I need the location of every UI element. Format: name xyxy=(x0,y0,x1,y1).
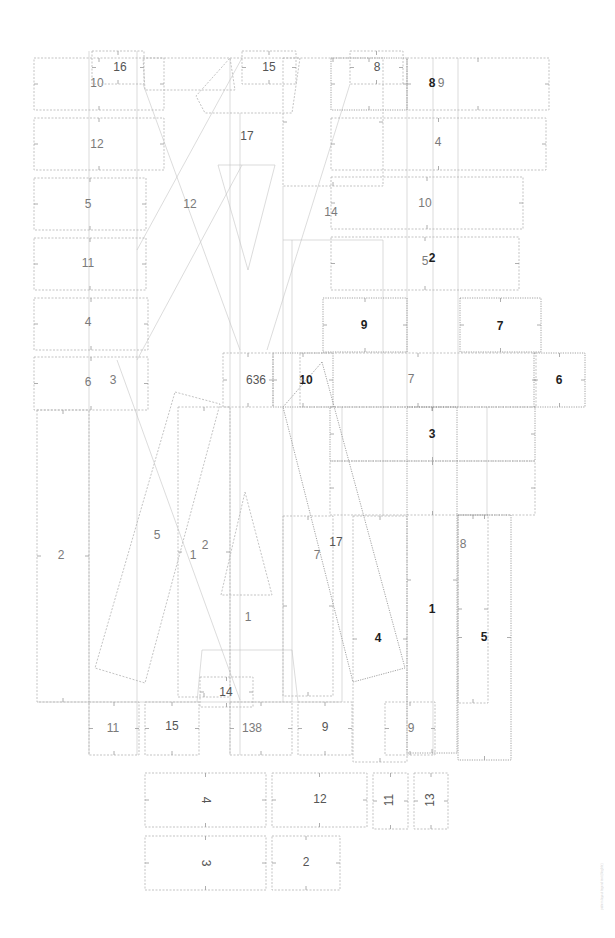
piece-number-label: 12 xyxy=(313,792,327,806)
piece-number-label: 13 xyxy=(423,793,437,807)
piece-number-label: 6 xyxy=(85,375,92,389)
piece-number-label: 4 xyxy=(375,631,382,645)
piece-number-label: 7 xyxy=(408,372,415,386)
pattern-piece-p17: 17 xyxy=(196,58,300,143)
pattern-piece-p2d: 2 xyxy=(272,836,340,890)
piece-number-label: 4 xyxy=(85,315,92,329)
piece-number-label: 4 xyxy=(199,797,213,804)
pattern-piece-p636: 636 xyxy=(223,353,273,407)
guide-line xyxy=(197,650,202,702)
piece-number-label: 3 xyxy=(199,860,213,867)
pattern-piece-p5b: 5 xyxy=(331,237,519,290)
pattern-layout-canvas: 1016125114632121517889414105297636107635… xyxy=(0,0,615,938)
pattern-piece-p14b: 14 xyxy=(200,677,253,707)
guide-line xyxy=(248,165,275,270)
pattern-piece-p1b: 1 xyxy=(221,492,272,624)
pattern-piece-p11b: 11 xyxy=(89,702,139,755)
piece-number-label: 2 xyxy=(429,251,436,265)
pattern-piece-p12c: 12 xyxy=(272,773,367,827)
pattern-piece-p8c: 8 xyxy=(458,515,488,703)
pattern-piece-p10b: 10 xyxy=(331,177,523,229)
piece-outline xyxy=(196,58,300,113)
piece-number-label: 9 xyxy=(438,76,445,90)
piece-number-label: 2 xyxy=(303,855,310,869)
piece-outline xyxy=(283,362,405,682)
pattern-piece-p7c: 7 xyxy=(283,516,333,696)
piece-outline xyxy=(221,492,272,595)
pattern-piece-p13: 13 xyxy=(414,773,448,829)
pattern-piece-p3a: 3 xyxy=(110,373,117,387)
piece-outline xyxy=(283,58,383,186)
piece-number-label: 16 xyxy=(113,60,127,74)
piece-number-label: 4 xyxy=(435,135,442,149)
pattern-pieces: 1016125114632121517889414105297636107635… xyxy=(34,51,585,890)
pattern-piece-p2c: 2 xyxy=(202,538,209,552)
pattern-piece-p12b: 12 xyxy=(143,58,235,211)
piece-number-label: 3 xyxy=(110,373,117,387)
piece-number-label: 5 xyxy=(85,197,92,211)
pattern-piece-p8a: 8 xyxy=(350,51,403,84)
piece-number-label: 8 xyxy=(460,537,467,551)
pattern-piece-p9c: 9 xyxy=(298,702,352,755)
pattern-piece-p17b: 17 xyxy=(329,535,343,549)
piece-number-label: 9 xyxy=(322,720,329,734)
piece-number-label: 12 xyxy=(90,137,104,151)
pattern-piece-p2a: 2 xyxy=(37,410,89,702)
pattern-piece-p9d: 9 xyxy=(385,702,435,755)
piece-number-label: 636 xyxy=(246,373,266,387)
piece-number-label: 15 xyxy=(262,60,276,74)
piece-number-label: 1 xyxy=(190,548,197,562)
guide-line xyxy=(292,650,298,702)
pattern-piece-p2b: 2 xyxy=(429,251,436,265)
guide-line xyxy=(137,58,242,250)
pattern-piece-p5d: 5 xyxy=(458,515,511,760)
pattern-piece-p138: 138 xyxy=(230,702,292,755)
piece-number-label: 11 xyxy=(382,793,396,806)
pattern-piece-p11a: 11 xyxy=(34,238,146,290)
piece-outline xyxy=(143,58,235,90)
piece-number-label: 17 xyxy=(329,535,343,549)
guide-line xyxy=(143,84,240,350)
piece-number-label: 11 xyxy=(82,256,95,270)
piece-number-label: 8 xyxy=(429,76,436,90)
guide-line xyxy=(218,165,248,270)
pattern-piece-p15b: 15 xyxy=(145,702,199,755)
pattern-piece-p11c: 11 xyxy=(373,773,408,829)
piece-number-label: 15 xyxy=(165,719,179,733)
pattern-piece-p1c: 1 xyxy=(407,407,457,753)
pattern-piece-p6a: 6 xyxy=(34,357,148,410)
pattern-piece-p3d: 3 xyxy=(145,836,266,890)
piece-number-label: 9 xyxy=(361,318,368,332)
pattern-piece-p7a: 7 xyxy=(460,298,541,352)
piece-number-label: 12 xyxy=(183,197,197,211)
pattern-piece-p3b: 3 xyxy=(330,407,535,461)
piece-number-label: 138 xyxy=(242,721,262,735)
piece-number-label: 14 xyxy=(219,685,233,699)
guide-lines xyxy=(37,51,487,755)
piece-outline xyxy=(283,516,333,696)
piece-number-label: 5 xyxy=(481,630,488,644)
pattern-piece-p9b: 9 xyxy=(323,298,407,352)
piece-number-label: 2 xyxy=(58,548,65,562)
piece-number-label: 6 xyxy=(556,373,563,387)
piece-number-label: 3 xyxy=(429,427,436,441)
piece-number-label: 1 xyxy=(245,610,252,624)
piece-number-label: 10 xyxy=(418,196,432,210)
guide-line xyxy=(117,360,240,700)
pattern-piece-p15a: 15 xyxy=(242,51,296,84)
pattern-piece-p5a: 5 xyxy=(34,178,146,230)
piece-number-label: 5 xyxy=(154,528,161,542)
pattern-piece-p4c: 4 xyxy=(283,362,405,682)
piece-number-label: 17 xyxy=(240,129,254,143)
piece-number-label: 1 xyxy=(429,602,436,616)
legend-footnote: pattern layout legend text (illegible) xyxy=(600,780,608,910)
pattern-piece-p4a: 4 xyxy=(34,298,148,350)
pattern-piece-p7b: 7 xyxy=(300,353,536,407)
pattern-piece-p6b: 6 xyxy=(534,353,585,407)
pattern-piece-p12a: 12 xyxy=(34,118,164,170)
piece-outline xyxy=(300,353,536,407)
pattern-piece-p4b: 4 xyxy=(331,118,546,170)
pattern-piece-p3c xyxy=(330,461,535,515)
piece-number-label: 2 xyxy=(202,538,209,552)
piece-number-label: 7 xyxy=(497,319,504,333)
